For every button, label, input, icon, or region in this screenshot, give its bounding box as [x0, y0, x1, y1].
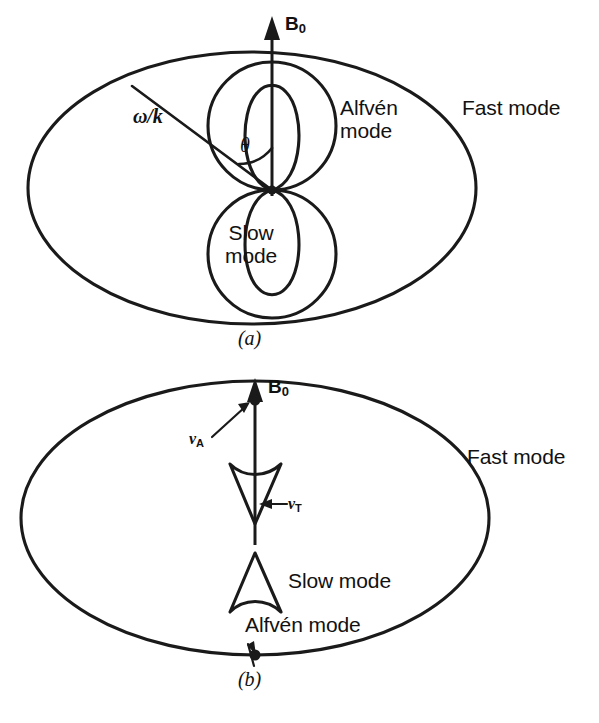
panel-b-slow-cusp-lower — [230, 553, 281, 612]
panel-a-graphics — [28, 16, 476, 324]
panel-b-slow-mode-label: Slow mode — [288, 570, 391, 593]
panel-b-tube-speed-label: vT — [288, 495, 302, 512]
figure-root: B0 ω/k θ Alfvénmode Fast mode Slowmode (… — [0, 0, 599, 723]
panel-b-alfven-point-top — [250, 395, 261, 406]
panel-b-va-symbol: v — [189, 430, 196, 447]
panel-a-b0-arrowhead-icon — [264, 16, 280, 40]
panel-b-va-leader-line — [212, 407, 245, 437]
panel-a-b0-symbol: B — [285, 13, 299, 34]
panel-a-slow-mode-line1: Slow — [229, 221, 274, 244]
panel-a-fast-mode-label: Fast mode — [462, 97, 560, 120]
panel-b-caption: (b) — [238, 669, 261, 691]
panel-a-slow-mode-line2: mode — [225, 244, 277, 267]
panel-a-alfven-mode-label: Alfvénmode — [340, 97, 398, 142]
panel-b-alfven-speed-label: vA — [189, 430, 204, 447]
panel-a-b0-subscript: 0 — [299, 21, 306, 36]
panel-a-alfven-mode-line1: Alfvén — [340, 96, 398, 119]
panel-b-va-subscript: A — [196, 437, 204, 449]
panel-b-b0-subscript: 0 — [282, 384, 289, 399]
panel-a-slow-mode-label: Slowmode — [225, 222, 277, 267]
panel-a-origin-dot — [268, 186, 277, 195]
panel-a-alfven-mode-line2: mode — [340, 119, 392, 142]
panel-a-b0-label: B0 — [285, 14, 306, 35]
panel-a-omega-over-k-label: ω/k — [133, 106, 163, 128]
panel-b-b0-symbol: B — [268, 376, 282, 397]
panel-b-vt-subscript: T — [295, 502, 302, 514]
panel-b-b0-label: B0 — [268, 377, 289, 398]
panel-a-theta-label: θ — [240, 135, 250, 157]
panel-a-caption: (a) — [238, 328, 261, 350]
panel-b-alfven-mode-label: Alfvén mode — [245, 614, 361, 637]
panel-b-fast-mode-label: Fast mode — [467, 446, 565, 469]
panel-b-vt-symbol: v — [288, 495, 295, 512]
